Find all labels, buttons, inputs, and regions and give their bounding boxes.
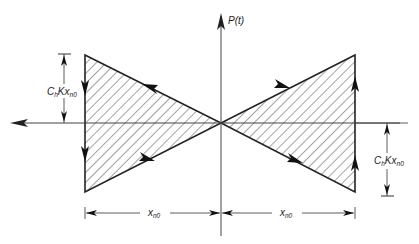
p-of-t-label: P(t)	[228, 15, 244, 26]
arrow-left-down-icon	[274, 79, 290, 88]
right-width-label: xn0	[279, 207, 293, 219]
bottom-width-dimensions	[85, 207, 355, 219]
hysteresis-diagram: P(t) ChKxn0 ChKxn0	[0, 0, 419, 244]
right-height-label: ChKxn0	[374, 155, 404, 167]
left-width-label: xn0	[147, 207, 161, 219]
left-height-label: ChKxn0	[47, 86, 77, 98]
